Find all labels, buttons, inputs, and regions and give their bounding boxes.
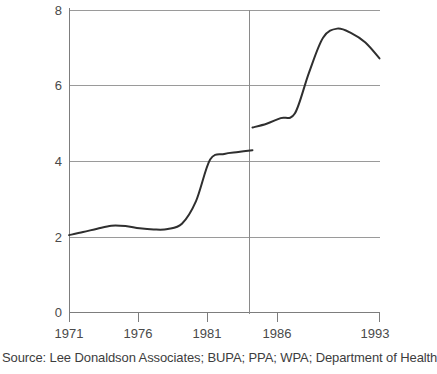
- xtick-label-1971: 1971: [55, 326, 84, 341]
- xtick-label-1986: 1986: [263, 326, 292, 341]
- source-note: Source: Lee Donaldson Associates; BUPA; …: [2, 350, 437, 365]
- y-axis-tick-labels: 8 6 4 2 0: [55, 3, 62, 320]
- ytick-label-0: 0: [55, 305, 62, 320]
- ytick-label-2: 2: [55, 230, 62, 245]
- ytick-label-8: 8: [55, 3, 62, 18]
- ytick-label-6: 6: [55, 78, 62, 93]
- xtick-label-1993: 1993: [361, 326, 390, 341]
- xtick-label-1981: 1981: [193, 326, 222, 341]
- data-series-group: [69, 28, 380, 235]
- series-line-segment-2: [252, 28, 379, 127]
- ytick-label-4: 4: [55, 154, 62, 169]
- gridlines: [69, 11, 380, 313]
- series-line-segment-1: [69, 150, 252, 235]
- x-axis-tickmarks: [70, 312, 380, 322]
- xtick-label-1976: 1976: [124, 326, 153, 341]
- x-axis-tick-labels: 1971 1976 1981 1986 1993: [55, 326, 390, 341]
